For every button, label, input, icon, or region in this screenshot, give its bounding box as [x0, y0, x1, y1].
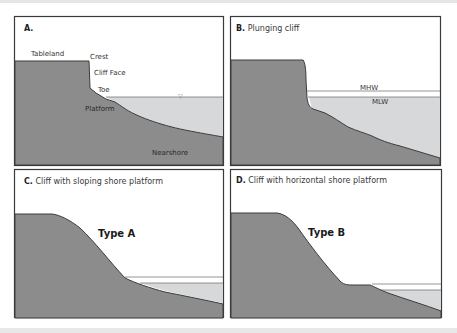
- label-tableland: Tableland: [30, 50, 64, 58]
- label-platform: Platform: [85, 105, 115, 113]
- panel-a: A. Tableland Crest Cliff Face Toe Platfo…: [15, 17, 224, 166]
- water-level-icon: ▽: [178, 92, 183, 99]
- panel-c: C. Cliff with sloping shore platform Typ…: [15, 170, 224, 319]
- panel-b: B. Plunging cliff MHW MLW: [231, 17, 441, 166]
- label-toe: Toe: [97, 86, 110, 94]
- label-mhw: MHW: [360, 84, 378, 92]
- panel-c-title: C. Cliff with sloping shore platform: [24, 177, 163, 186]
- coastal-cliff-diagram: A. Tableland Crest Cliff Face Toe Platfo…: [0, 0, 457, 333]
- bottom-border-band: [0, 328, 457, 333]
- panel-a-letter: A.: [24, 24, 33, 33]
- panel-d: D. Cliff with horizontal shore platform …: [231, 170, 442, 319]
- label-cliff-face: Cliff Face: [94, 69, 126, 77]
- label-nearshore: Nearshore: [152, 149, 188, 157]
- type-b-label: Type B: [308, 227, 345, 238]
- panel-d-title: D. Cliff with horizontal shore platform: [236, 176, 387, 185]
- label-mlw: MLW: [372, 98, 388, 106]
- panel-b-title: B. Plunging cliff: [236, 24, 300, 33]
- type-a-label: Type A: [98, 228, 136, 239]
- label-crest: Crest: [90, 53, 109, 61]
